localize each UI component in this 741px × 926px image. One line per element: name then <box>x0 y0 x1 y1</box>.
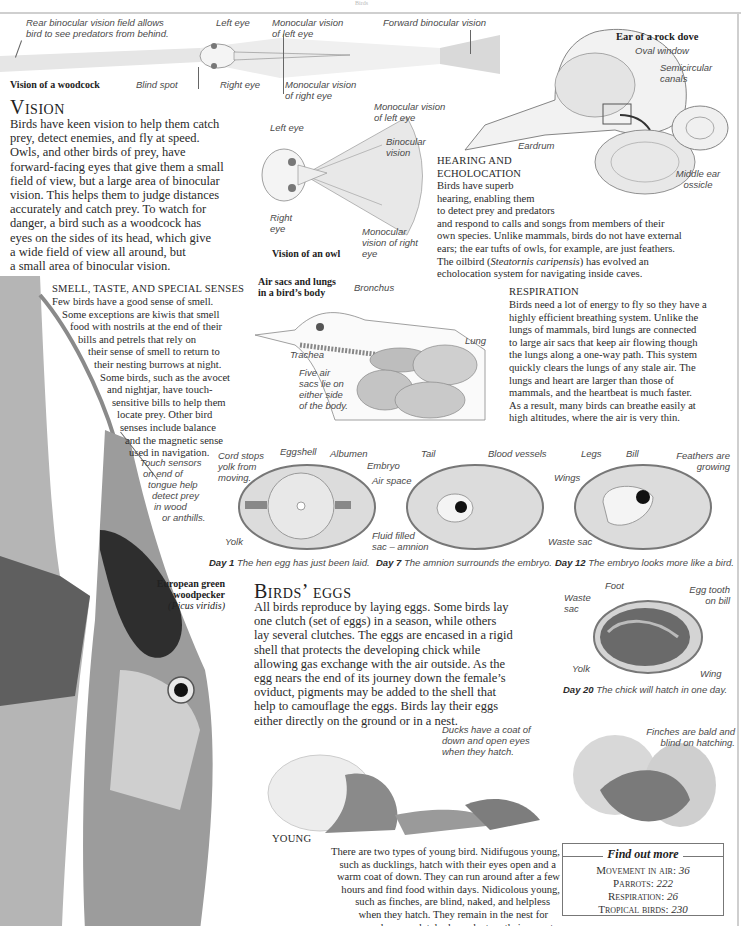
label-owl-right-eye: Right eye <box>270 212 300 234</box>
day7-caption: Day 7 The amnion surrounds the embryo. <box>376 557 552 568</box>
text-line: food with nostrils at the end of their <box>52 321 272 334</box>
text-line: echolocation system for navigating insid… <box>437 268 737 281</box>
senses-heading: SMELL, TASTE, AND SPECIAL SENSES <box>52 283 244 296</box>
ref-page: 230 <box>671 903 688 915</box>
ref-page: 26 <box>667 890 678 902</box>
label-waste-sac: Waste sac <box>564 592 591 614</box>
text-line: their sense of smell to return to <box>52 346 272 359</box>
heading-line: ECHOLOCATION <box>437 168 521 181</box>
day12-caption: Day 12 The embryo looks more like a bird… <box>555 557 734 568</box>
label-wing: Wing <box>700 668 722 679</box>
text-line: There are two types of young bird. Nidif… <box>280 846 560 859</box>
text-line: weeks, completely dependent on their par… <box>280 922 560 926</box>
label-finches: Finches are bald and blind on hatching. <box>625 726 735 748</box>
label-line: Touch sensors <box>140 457 220 468</box>
label-line: Five air <box>299 367 359 378</box>
text-line: a small area of binocular vision. <box>10 259 250 273</box>
cross-ref-respiration[interactable]: Respiration: 26 <box>563 890 723 903</box>
leader-line <box>198 67 199 89</box>
text-line: All birds reproduce by laying eggs. Some… <box>254 600 554 614</box>
text-line: Few birds have a good sense of smell. <box>52 296 272 309</box>
ref-page: 222 <box>657 877 674 889</box>
caption-text: The amnion surrounds the embryo. <box>404 557 552 568</box>
label-rear-binocular: Rear binocular vision field allows bird … <box>26 17 176 39</box>
text-line: egg nears the end of its journey down th… <box>254 671 554 685</box>
text-line: Some exceptions are kiwis that smell <box>52 309 272 322</box>
text-line: shell that protects the developing chick… <box>254 643 554 657</box>
day-number: Day 20 <box>563 684 594 695</box>
text-line: vision. This helps them to judge distanc… <box>10 188 250 202</box>
text-span: The oilbird ( <box>437 256 491 267</box>
label-line: in wood <box>140 501 220 512</box>
label-blind-spot: Blind spot <box>136 79 178 90</box>
label-ducks: Ducks have a coat of down and open eyes … <box>442 724 552 757</box>
text-line: Some birds, such as the avocet <box>52 372 272 385</box>
label-right-eye: Right eye <box>220 79 260 90</box>
title-rule <box>683 856 723 857</box>
text-line: locate prey. Other bird <box>52 409 272 422</box>
text-line: highly efficient breathing system. Unlik… <box>509 312 739 325</box>
label-line: detect prey <box>140 490 220 501</box>
label-mono-left: Monocular vision of left eye <box>272 17 352 39</box>
text-line: to detect prey and predators <box>437 205 737 218</box>
text-line: such as finches, are blind, naked, and h… <box>280 896 560 909</box>
cross-reference-list: Movement in air: 36 Parrots: 222 Respira… <box>563 864 723 916</box>
text-line: a wide field of view all around, but <box>10 245 250 259</box>
label-line: Waste <box>564 592 591 603</box>
latin-name: Steatornis caripensis <box>491 256 580 267</box>
respiration-heading: RESPIRATION <box>509 286 579 299</box>
text-line: lay several clutches. The eggs are encas… <box>254 628 554 642</box>
text-line: As a result, many birds can breathe easi… <box>509 400 739 413</box>
label-line: moving. <box>218 472 278 483</box>
respiration-body: Birds need a lot of energy to fly so the… <box>509 299 739 425</box>
label-eardrum: Eardrum <box>518 140 554 151</box>
text-line: ears; the ear tufts of owls, for example… <box>437 243 737 256</box>
caption-line: woodpecker <box>120 589 225 600</box>
label-oval-window: Oval window <box>635 45 689 56</box>
text-line: their nesting burrows at night. <box>52 359 272 372</box>
text-line: help to camouflage the eggs. Birds lay t… <box>254 699 554 713</box>
text-line: allowing gas exchange with the air outsi… <box>254 657 554 671</box>
label-legs: Legs <box>581 448 602 459</box>
heading-line: HEARING AND <box>437 155 521 168</box>
label-line: Finches are bald and <box>625 726 735 737</box>
label-line: Fluid filled <box>372 530 429 541</box>
text-line: oviduct, pigments may be added to the sh… <box>254 685 554 699</box>
cross-ref-movement-in-air[interactable]: Movement in air: 36 <box>563 864 723 877</box>
woodpecker-caption: European green woodpecker (Picus viridis… <box>120 578 225 611</box>
label-line: Cord stops <box>218 450 278 461</box>
cross-ref-tropical-birds[interactable]: Tropical birds: 230 <box>563 903 723 916</box>
text-span: ) has evolved an <box>580 256 649 267</box>
text-line: hearing, enabling them <box>437 193 737 206</box>
label-line: of the body. <box>299 400 359 411</box>
label-tail: Tail <box>421 448 435 459</box>
birds-eggs-heading: Birds’ eggs <box>254 580 351 602</box>
text-line: eyes on the sides of its head, which giv… <box>10 231 250 245</box>
label-egg-tooth: Egg tooth on bill <box>680 584 730 606</box>
text-line: sensitive bills to help them <box>52 397 272 410</box>
label-yolk: Yolk <box>225 536 243 547</box>
label-owl-left-eye: Left eye <box>270 122 304 133</box>
cross-ref-parrots[interactable]: Parrots: 222 <box>563 877 723 890</box>
label-owl-mono-left: Monocular vision of left eye <box>374 101 454 123</box>
text-line: lungs and heart are larger than those of <box>509 375 739 388</box>
caption-line: Air sacs and lungs <box>258 276 336 287</box>
label-owl-binocular: Binocular vision <box>386 136 436 158</box>
text-line: accurately and catch prey. To watch for <box>10 202 250 216</box>
text-line: senses include balance <box>52 422 272 435</box>
text-line: field of view, but a large area of binoc… <box>10 174 250 188</box>
text-line: prey, detect enemies, and fly at speed. <box>10 131 250 145</box>
text-line: and nightjar, have touch- <box>52 384 272 397</box>
label-trachea: Trachea <box>290 349 324 360</box>
label-lung: Lung <box>465 335 486 346</box>
text-line: and respond to calls and songs from memb… <box>437 218 737 231</box>
find-out-more-title: Find out more <box>563 847 723 862</box>
egg-day20-illustration <box>593 597 703 677</box>
label-fluid-sac: Fluid filled sac – amnion <box>372 530 429 552</box>
label-line: growing <box>670 461 730 472</box>
day-number: Day 12 <box>555 557 586 568</box>
label-owl-mono-right: Monocular vision of right eye <box>362 226 422 259</box>
label-line: yolk from <box>218 461 278 472</box>
label-line: down and open eyes <box>442 735 552 746</box>
text-line: quickly clears the lungs of any stale ai… <box>509 362 739 375</box>
